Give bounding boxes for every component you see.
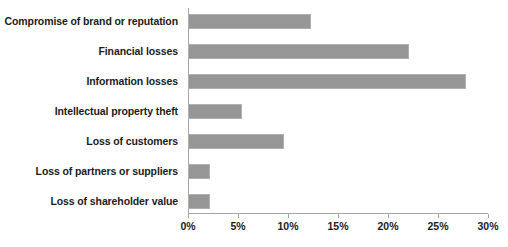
x-axis-tick [238,214,239,218]
x-axis-tick [488,214,489,218]
category-label-information-losses: Information losses [86,74,178,88]
category-label-compromise-of-brand-or-reputation: Compromise of brand or reputation [5,14,178,28]
bar-compromise-of-brand-or-reputation [188,14,311,29]
bar-loss-of-shareholder-value [188,194,210,209]
x-tick-label-20: 20% [377,220,398,232]
x-axis-tick [388,214,389,218]
bar-chart: Compromise of brand or reputation Financ… [0,0,508,247]
x-tick-label-25: 25% [427,220,448,232]
bar-information-losses [188,74,466,89]
bar-financial-losses [188,44,409,59]
category-axis-labels: Compromise of brand or reputation Financ… [0,0,184,212]
x-axis-tick-labels: 0% 5% 10% 15% 20% 25% 30% [188,220,498,240]
x-axis-tick [438,214,439,218]
bar-intellectual-property-theft [188,104,242,119]
bar-loss-of-partners-or-suppliers [188,164,210,179]
x-tick-label-5: 5% [230,220,245,232]
x-axis-tick [338,214,339,218]
x-axis-tick [288,214,289,218]
category-label-intellectual-property-theft: Intellectual property theft [55,104,178,118]
plot-area [188,8,488,214]
category-label-loss-of-partners-or-suppliers: Loss of partners or suppliers [36,164,178,178]
category-label-loss-of-shareholder-value: Loss of shareholder value [50,194,178,208]
bar-loss-of-customers [188,134,284,149]
x-tick-label-0: 0% [180,220,195,232]
x-tick-label-15: 15% [327,220,348,232]
x-tick-label-30: 30% [477,220,498,232]
x-tick-label-10: 10% [277,220,298,232]
x-axis-tick [188,214,189,218]
category-label-financial-losses: Financial losses [98,44,178,58]
category-label-loss-of-customers: Loss of customers [86,134,178,148]
